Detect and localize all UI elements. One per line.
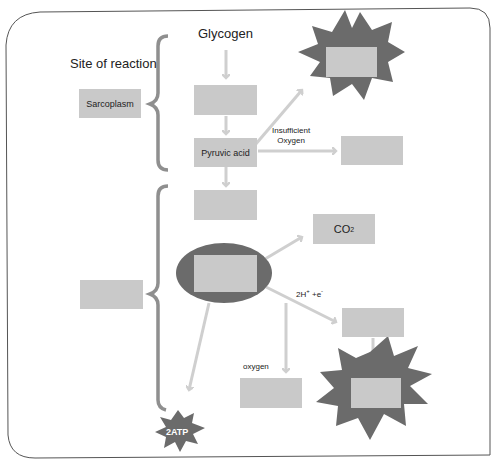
electron-minus: - — [321, 288, 323, 294]
h-label: 2H — [296, 290, 306, 299]
site-box-sarcoplasm-label: Sarcoplasm — [86, 99, 134, 109]
blank-box-burst-bottom — [351, 378, 401, 408]
insufficient-label-line2: Oxygen — [272, 136, 310, 146]
insufficient-oxygen-label: Insufficient Oxygen — [272, 126, 310, 146]
blank-box-burst-top — [326, 47, 377, 77]
h-electron-label: 2H+ +e- — [296, 288, 323, 299]
site-box-blank — [80, 280, 143, 309]
blank-box-1 — [194, 85, 257, 115]
blank-box-water — [240, 378, 302, 408]
blank-box-lactic — [341, 136, 403, 165]
site-box-sarcoplasm: Sarcoplasm — [79, 89, 141, 118]
blank-box-etc — [342, 308, 404, 337]
arrow-ellipse-to-co2 — [265, 237, 302, 259]
site-of-reaction-label: Site of reaction — [70, 56, 157, 71]
electron-label: +e — [312, 290, 321, 299]
co2-subscript: 2 — [350, 226, 354, 233]
co2-box: CO2 — [313, 214, 375, 244]
glycogen-label: Glycogen — [198, 26, 253, 41]
atp-label: 2ATP — [166, 427, 188, 437]
blank-box-ellipse — [194, 255, 257, 292]
arrow-ellipse-to-atp — [189, 303, 209, 390]
co2-label: CO — [334, 223, 351, 235]
blank-box-2 — [194, 190, 257, 220]
pyruvic-acid-label: Pyruvic acid — [201, 148, 250, 158]
insufficient-label-line1: Insufficient — [272, 126, 310, 136]
oxygen-label: oxygen — [243, 362, 269, 371]
h-plus: + — [306, 288, 310, 294]
pyruvic-acid-box: Pyruvic acid — [194, 138, 257, 167]
brace-bottom — [150, 186, 168, 410]
